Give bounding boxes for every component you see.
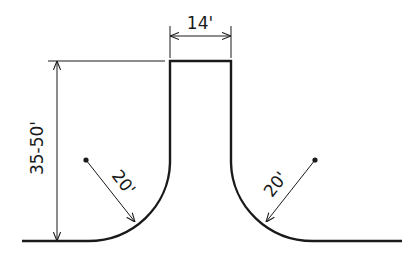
diagram-canvas: 14' 35-50' 20' 20' (0, 0, 411, 269)
profile-outline (22, 61, 402, 241)
top-width-label: 14' (187, 13, 213, 33)
height-label: 35-50' (27, 121, 47, 175)
